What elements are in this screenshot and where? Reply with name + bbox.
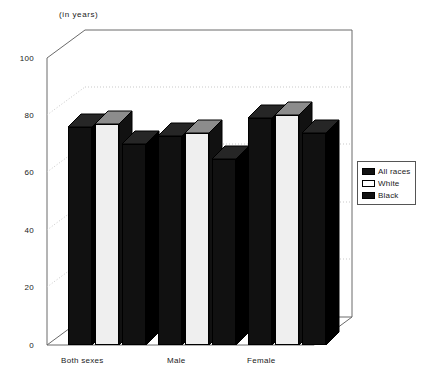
- bar-face: [185, 133, 209, 345]
- legend-item-all-races: All races: [362, 165, 410, 177]
- bar-both-sexes-black: [122, 144, 146, 345]
- bar-3d-top: [212, 146, 249, 160]
- bar-face: [68, 127, 92, 345]
- legend-item-black: Black: [362, 189, 410, 201]
- bar-face: [122, 144, 146, 345]
- bar-male-white: [185, 133, 209, 345]
- bar-both-sexes-all-races: [68, 127, 92, 345]
- x-tick-label-both-sexes: Both sexes: [61, 356, 104, 365]
- bar-chart: (in years) 100 80 60 40 20 0: [0, 0, 445, 381]
- axis-title: (in years): [59, 10, 98, 19]
- bar-face: [275, 115, 299, 345]
- legend-label: White: [378, 179, 399, 188]
- bar-female-white: [275, 115, 299, 345]
- bar-female-black: [302, 133, 326, 345]
- bar-3d-top: [185, 120, 222, 134]
- legend-swatch-icon: [362, 192, 375, 199]
- bar-3d-top: [302, 120, 339, 134]
- bar-both-sexes-white: [95, 124, 119, 345]
- legend-swatch-icon: [362, 168, 375, 175]
- x-tick-label-male: Male: [167, 356, 186, 365]
- y-tick-label: 100: [8, 54, 34, 63]
- y-tick-label: 40: [8, 226, 34, 235]
- legend-item-white: White: [362, 177, 410, 189]
- bar-male-all-races: [158, 136, 182, 345]
- bar-face: [302, 133, 326, 345]
- legend-label: Black: [378, 191, 399, 200]
- bar-face: [158, 136, 182, 345]
- legend-swatch-icon: [362, 180, 375, 187]
- y-tick-label: 60: [8, 168, 34, 177]
- bar-3d-side: [326, 120, 339, 345]
- y-tick-label: 80: [8, 111, 34, 120]
- bar-face: [248, 118, 272, 345]
- legend-label: All races: [378, 167, 410, 176]
- y-tick-label: 0: [8, 341, 34, 350]
- x-tick-label-female: Female: [247, 356, 275, 365]
- bar-3d-top: [275, 102, 312, 116]
- legend: All races White Black: [357, 161, 416, 205]
- y-tick-label: 20: [8, 283, 34, 292]
- bar-face: [212, 159, 236, 345]
- bar-3d-top: [122, 131, 159, 145]
- bar-face: [95, 124, 119, 345]
- bar-male-black: [212, 159, 236, 345]
- bar-female-all-races: [248, 118, 272, 345]
- bar-3d-top: [95, 111, 132, 125]
